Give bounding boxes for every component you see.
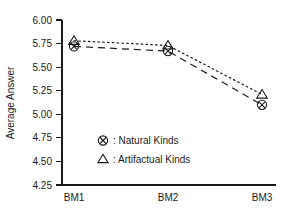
y-tick-label: 5.50 xyxy=(33,62,53,73)
legend-label-artifactual: : Artifactual Kinds xyxy=(113,154,190,165)
y-tick-label: 5.00 xyxy=(33,109,53,120)
series-markers-artifactual xyxy=(69,36,268,98)
chart-container: Average Answer 6.00 5.75 5.50 5.25 5.00 … xyxy=(0,0,286,223)
x-tick-label-bm1: BM1 xyxy=(64,192,85,203)
y-tick-label: 6.00 xyxy=(33,15,53,26)
line-chart: Average Answer 6.00 5.75 5.50 5.25 5.00 … xyxy=(0,0,286,223)
legend-entry-artifactual: : Artifactual Kinds xyxy=(98,154,190,165)
x-tick-label-bm2: BM2 xyxy=(158,192,179,203)
y-tick-marks xyxy=(56,20,62,185)
x-tick-labels: BM1 BM2 BM3 xyxy=(64,192,273,203)
y-tick-labels: 6.00 5.75 5.50 5.25 5.00 4.75 4.50 4.25 xyxy=(33,15,53,191)
y-tick-label: 5.75 xyxy=(33,38,53,49)
triangle-up-icon xyxy=(98,154,108,162)
x-tick-label-bm3: BM3 xyxy=(252,192,273,203)
y-tick-label: 5.25 xyxy=(33,85,53,96)
y-tick-label: 4.25 xyxy=(33,180,53,191)
legend-entry-natural: : Natural Kinds xyxy=(98,135,178,146)
y-tick-label: 4.50 xyxy=(33,156,53,167)
data-point-artifactual xyxy=(257,89,268,98)
series-markers-natural xyxy=(69,42,266,110)
y-axis-title: Average Answer xyxy=(5,66,16,139)
chart-legend: : Natural Kinds : Artifactual Kinds xyxy=(98,135,190,165)
y-tick-label: 4.75 xyxy=(33,132,53,143)
legend-label-natural: : Natural Kinds xyxy=(113,135,179,146)
